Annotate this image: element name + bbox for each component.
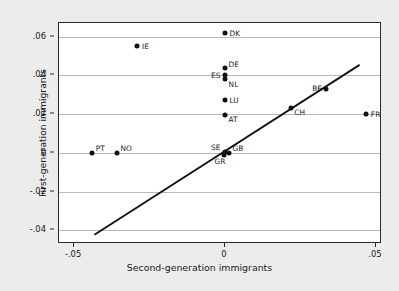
data-point[interactable] [135, 44, 140, 49]
data-point-label: SE [211, 143, 221, 152]
data-point[interactable] [114, 150, 119, 155]
gridline [59, 153, 380, 154]
data-point[interactable] [223, 30, 228, 35]
y-tick-mark [50, 229, 54, 230]
data-point-label: CH [294, 108, 305, 117]
gridline [59, 192, 380, 193]
data-point-label: ES [211, 71, 221, 80]
y-tick-mark [50, 113, 54, 114]
data-point[interactable] [223, 77, 228, 82]
data-point-label: GR [215, 157, 226, 166]
gridline [59, 114, 380, 115]
data-point[interactable] [90, 150, 95, 155]
data-point-label: FR [371, 110, 381, 119]
data-point[interactable] [364, 111, 369, 116]
y-tick-mark [50, 151, 54, 152]
y-tick-label: -.02 [30, 186, 46, 196]
data-point-label: DE [229, 60, 240, 69]
gridline [59, 230, 380, 231]
x-tick-label: .05 [368, 249, 381, 259]
y-axis-tick-labels: .06.04.020-.02-.04 [14, 22, 54, 243]
data-point-label: LU [230, 96, 239, 105]
y-tick-mark [50, 74, 54, 75]
trend-line [59, 23, 380, 242]
data-point[interactable] [223, 112, 228, 117]
data-point[interactable] [288, 105, 293, 110]
y-tick-label: 0 [41, 147, 46, 157]
data-point[interactable] [223, 66, 228, 71]
data-point-label: IE [142, 42, 149, 51]
x-tick-mark [375, 243, 376, 247]
x-tick-label: 0 [221, 249, 226, 259]
x-axis-tick-labels: -.050.05 [0, 247, 399, 263]
x-axis-title: Second-generation immigrants [0, 262, 399, 273]
y-tick-mark [50, 190, 54, 191]
y-tick-label: .02 [33, 108, 46, 118]
y-tick-label: -.04 [30, 224, 46, 234]
x-tick-label: -.05 [65, 249, 81, 259]
x-tick-mark [73, 243, 74, 247]
data-point-label: NL [229, 80, 239, 89]
data-point[interactable] [226, 150, 231, 155]
data-point-label: NO [120, 144, 132, 153]
y-tick-label: .04 [33, 69, 46, 79]
data-point-label: DK [230, 29, 241, 38]
data-point[interactable] [324, 86, 329, 91]
gridline [59, 37, 380, 38]
y-tick-label: .06 [33, 31, 46, 41]
scatter-chart-figure: First-generation immigrants .06.04.020-.… [0, 0, 399, 291]
data-point[interactable] [223, 98, 228, 103]
plot-area: DKIEDEESNLBELUCHFRATPTNOSEGBGR [58, 22, 381, 243]
x-tick-mark [224, 243, 225, 247]
data-point-label: PT [96, 144, 105, 153]
y-tick-mark [50, 35, 54, 36]
data-point-label: BE [312, 84, 322, 93]
data-point-label: GB [232, 144, 243, 153]
data-point-label: AT [229, 115, 238, 124]
